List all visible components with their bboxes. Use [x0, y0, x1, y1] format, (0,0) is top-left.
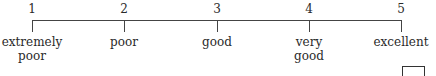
label-line: excellent — [361, 35, 436, 49]
tick-5 — [401, 20, 402, 32]
scale-label-4: very good — [269, 35, 349, 63]
label-line: poor — [0, 49, 72, 63]
tick-4 — [309, 20, 310, 32]
scale-label-3: good — [177, 35, 257, 49]
scale-number-1: 1 — [17, 2, 47, 16]
label-line: extremely — [0, 35, 72, 49]
scale-label-5: excellent — [361, 35, 436, 49]
label-line: good — [269, 49, 349, 63]
tick-3 — [217, 20, 218, 32]
scale-label-2: poor — [84, 35, 164, 49]
answer-box[interactable] — [402, 66, 425, 76]
label-line: very — [269, 35, 349, 49]
tick-1 — [32, 20, 33, 32]
scale-label-1: extremely poor — [0, 35, 72, 63]
tick-2 — [124, 20, 125, 32]
scale-number-4: 4 — [294, 2, 324, 16]
scale-number-2: 2 — [109, 2, 139, 16]
scale-number-3: 3 — [202, 2, 232, 16]
scale-number-5: 5 — [386, 2, 416, 16]
label-line: good — [177, 35, 257, 49]
label-line: poor — [84, 35, 164, 49]
